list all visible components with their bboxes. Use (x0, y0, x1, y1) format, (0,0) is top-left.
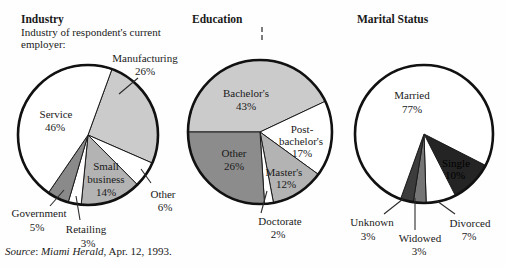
industry-chart-title: Industry (21, 13, 64, 26)
pie-label: 6% (158, 201, 173, 213)
pie-label: Master's (266, 166, 303, 178)
pie-label: 14% (96, 186, 116, 198)
pie-label: Other (221, 147, 246, 159)
pie-label: 17% (292, 147, 312, 159)
pie-label: Government (12, 207, 67, 219)
pie-label: Post- (291, 123, 314, 135)
figure-canvas: Industry Industry of respondent's curren… (0, 0, 505, 268)
pie-label: 43% (236, 100, 256, 112)
pie-label: Other (150, 188, 175, 200)
pie-label: Unknown (350, 216, 393, 228)
pie-label: business (87, 173, 124, 185)
pie-label: 7% (462, 230, 477, 242)
source-journal: Miami Herald (41, 245, 104, 257)
pie-label: Service (40, 108, 73, 120)
pie-marital-status (355, 65, 493, 203)
pie-label: 2% (271, 228, 286, 240)
pie-label: bachelor's (279, 135, 323, 147)
pie-label: Bachelor's (223, 87, 269, 99)
pie-label: Retailing (66, 223, 106, 235)
leader-line-7 (437, 201, 455, 214)
education-chart-title: Education (192, 13, 243, 26)
source-date: , Apr. 12, 1993. (104, 245, 172, 257)
pie-label: 5% (30, 221, 45, 233)
pie-label: Manufacturing (112, 52, 177, 64)
pie-label: 12% (276, 178, 296, 190)
industry-chart-subtitle-line2: employer: (21, 38, 66, 50)
source-note: Source: Miami Herald, Apr. 12, 1993. (5, 245, 172, 257)
pie-label: Married (394, 89, 429, 101)
pie-label: Small (93, 160, 119, 172)
pie-label: 26% (224, 160, 244, 172)
pie-label: Doctorate (258, 215, 301, 227)
pie-label: Single (442, 157, 470, 169)
pie-label: 3% (412, 245, 427, 257)
pie-label: Widowed (399, 232, 441, 244)
source-word: Source (5, 245, 35, 257)
industry-chart-subtitle-line1: Industry of respondent's current (21, 26, 161, 38)
pie-label: 3% (361, 230, 376, 242)
pie-label: 77% (402, 103, 422, 115)
pie-label: 46% (45, 121, 65, 133)
pie-label: Divorced (450, 217, 491, 229)
leader-line-5 (384, 199, 403, 214)
marital-status-chart-title: Marital Status (357, 13, 428, 26)
pie-label: 26% (135, 65, 155, 77)
pie-label: 10% (445, 169, 465, 181)
